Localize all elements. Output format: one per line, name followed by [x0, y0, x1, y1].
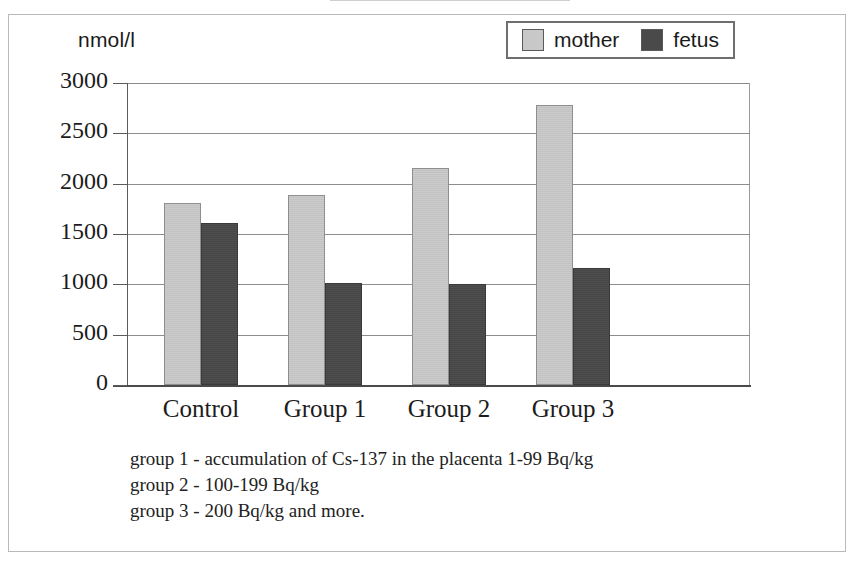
y-axis-tick [113, 133, 127, 134]
y-axis-tick-label: 3000 [8, 67, 108, 94]
legend-item-fetus: fetus [641, 28, 719, 52]
y-axis-tick [113, 284, 127, 285]
bar-fetus-control [201, 223, 238, 385]
y-axis-tick [113, 385, 127, 386]
y-axis-tick-label: 1000 [8, 268, 108, 295]
y-axis-tick [113, 83, 127, 84]
bar-fetus-group-3 [573, 268, 610, 385]
footnote-group-1: group 1 - accumulation of Cs-137 in the … [130, 446, 593, 472]
bar-mother-control [164, 203, 201, 385]
y-axis-tick-label: 2500 [8, 117, 108, 144]
legend-label-fetus: fetus [673, 28, 719, 52]
bar-fetus-group-2 [449, 284, 486, 385]
bar-mother-group-2 [412, 168, 449, 385]
legend-item-mother: mother [522, 28, 619, 52]
bar-mother-group-1 [288, 195, 325, 385]
footnote-group-2: group 2 - 100-199 Bq/kg [130, 472, 593, 498]
y-axis-tick-label: 500 [8, 319, 108, 346]
y-axis-tick [113, 234, 127, 235]
chart-footnotes: group 1 - accumulation of Cs-137 in the … [130, 446, 593, 524]
y-axis-tick-label: 0 [8, 369, 108, 396]
bar-fetus-group-1 [325, 283, 362, 385]
chart-legend: mother fetus [506, 21, 735, 59]
legend-label-mother: mother [554, 28, 619, 52]
x-axis-label-group-3: Group 3 [483, 395, 663, 423]
y-axis-tick-labels: 050010001500200025003000 [0, 0, 108, 565]
legend-swatch-mother-icon [522, 29, 544, 51]
x-axis-line [113, 385, 751, 387]
legend-swatch-fetus-icon [641, 29, 663, 51]
y-axis-tick [113, 335, 127, 336]
y-axis-tick-label: 1500 [8, 218, 108, 245]
footnote-group-3: group 3 - 200 Bq/kg and more. [130, 498, 593, 524]
bar-mother-group-3 [536, 105, 573, 385]
top-hairline [330, 0, 570, 1]
chart-page: nmol/l mother fetus 05001000150020002500… [0, 0, 858, 565]
y-axis-tick [113, 184, 127, 185]
bars-layer [127, 83, 750, 385]
y-axis-tick-label: 2000 [8, 168, 108, 195]
